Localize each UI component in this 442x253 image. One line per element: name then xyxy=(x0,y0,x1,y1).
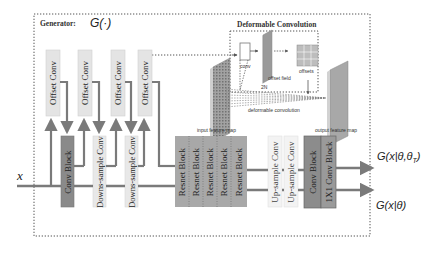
input-feature-map-label: input feature map xyxy=(197,127,236,133)
conv-box xyxy=(240,43,250,60)
two-n-label: 2N xyxy=(261,84,267,90)
resnet-block-5-label: Resnet Block xyxy=(231,136,247,207)
offset-field-label: offset field xyxy=(268,75,291,81)
output-top: G(x|θ,θT) xyxy=(377,150,421,164)
resnet-block-1-label: Resnet Block xyxy=(175,136,189,207)
resnet-block-4-label: Resnet Block xyxy=(217,136,231,207)
deformable-title: Deformable Convolution xyxy=(237,20,316,29)
offsets-label: offsets xyxy=(299,68,314,74)
output-bottom: G(x|θ) xyxy=(376,199,406,211)
conv-label: conv xyxy=(240,63,251,69)
resnet-block-3-label: Resnet Block xyxy=(203,136,217,207)
output-feature-map-label: output feature map xyxy=(315,127,357,133)
deformable-convolution-label: deformable convolution xyxy=(248,107,300,113)
offset-conv-4-label: Offset Conv xyxy=(138,50,152,116)
generator-label: Generator: xyxy=(40,19,76,28)
input-x: x xyxy=(17,168,23,184)
offset-conv-2-label: Offset Conv xyxy=(78,50,92,116)
one-by-one-conv-label: 1X1 Conv Block xyxy=(321,136,336,208)
final-conv-block-label: Conv Block xyxy=(304,136,321,208)
upsample-conv-2-label: Up-sample Conv xyxy=(284,136,298,207)
resnet-block-2-label: Resnet Block xyxy=(189,136,203,207)
offset-conv-3-label: Offset Conv xyxy=(111,50,125,116)
downsample-conv-1-label: Downs-sample Conv xyxy=(93,136,106,207)
downsample-conv-2-label: Downs-sample Conv xyxy=(125,136,138,207)
offsets-grid xyxy=(297,45,318,66)
upsample-conv-1-label: Up-sample Conv xyxy=(268,136,282,207)
offset-conv-1-label: Offset Conv xyxy=(46,50,60,116)
generator-symbol: G(·) xyxy=(90,16,111,30)
conv-block-label: Conv Block xyxy=(61,136,74,207)
